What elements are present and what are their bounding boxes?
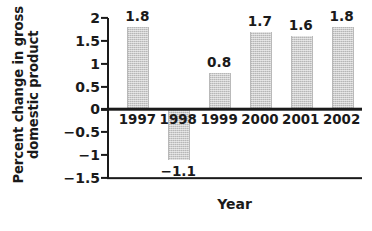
bar <box>127 27 149 109</box>
plot-area: 1.81997−1.119980.819991.720001.620011.82… <box>107 18 362 178</box>
bar-value-label: 1.8 <box>330 8 354 24</box>
y-axis-tick-mark <box>101 131 108 133</box>
y-axis-tick-label: 2 <box>90 10 100 26</box>
y-axis-title: Percent change in gross domestic product <box>0 0 54 190</box>
bar-value-label: 0.8 <box>207 54 231 70</box>
y-axis-title-line-1: Percent change in gross <box>12 6 27 184</box>
y-axis-tick-label: 0 <box>90 101 100 117</box>
x-axis-category-label: 2002 <box>323 112 360 127</box>
bar-value-label: 1.7 <box>248 13 272 29</box>
y-axis-tick-label: 0.5 <box>75 79 100 95</box>
bar <box>209 73 231 110</box>
bar-value-label: 1.8 <box>125 8 149 24</box>
y-axis-tick-mark <box>101 63 108 65</box>
x-axis-category-label: 1998 <box>160 112 197 127</box>
y-axis-title-line-2: domestic product <box>27 6 42 184</box>
y-axis-tick-label: −1.5 <box>63 170 100 186</box>
x-axis-category-label: 2000 <box>241 112 278 127</box>
y-axis-tick-mark <box>101 85 108 87</box>
y-axis-title-text: Percent change in gross domestic product <box>12 6 42 184</box>
x-axis-category-label: 1997 <box>119 112 156 127</box>
y-axis-tick-mark <box>101 40 108 42</box>
x-axis-category-label: 2001 <box>282 112 319 127</box>
bar-chart-figure: Percent change in gross domestic product… <box>0 0 372 231</box>
y-axis-tick-mark <box>101 154 108 156</box>
y-axis-tick-mark <box>101 17 108 19</box>
x-axis-title: Year <box>107 196 362 212</box>
bottom-axis-rule <box>107 177 362 179</box>
bar-value-label: −1.1 <box>161 163 196 179</box>
bar <box>332 27 354 109</box>
bar <box>250 32 272 110</box>
y-axis-tick-label: −1 <box>79 147 100 163</box>
zero-baseline <box>107 108 362 111</box>
x-axis-category-label: 1999 <box>200 112 237 127</box>
bar <box>291 36 313 109</box>
bar-value-label: 1.6 <box>289 17 313 33</box>
y-axis-tick-label: −0.5 <box>63 124 100 140</box>
y-axis-tick-labels: 21.510.50−0.5−1−1.5 <box>54 18 104 178</box>
y-axis-tick-label: 1.5 <box>75 33 100 49</box>
y-axis-tick-label: 1 <box>90 56 100 72</box>
